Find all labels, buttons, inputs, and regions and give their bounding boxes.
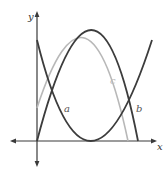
curve-a-label: a (64, 103, 70, 114)
curve-c-label: c (110, 75, 116, 86)
function-graph: y x a b c (0, 0, 165, 175)
x-axis-label: x (157, 141, 163, 152)
curve-b-label: b (136, 103, 142, 114)
y-axis-label: y (27, 11, 34, 22)
curve-b (37, 30, 138, 141)
